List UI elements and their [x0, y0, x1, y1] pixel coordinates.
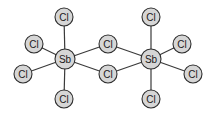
- atom-cl-cl10: Cl: [142, 90, 160, 108]
- atom-cl-cl9: Cl: [184, 65, 202, 83]
- atom-sb-sb2: Sb: [141, 49, 161, 69]
- atom-label: Sb: [145, 54, 158, 65]
- atom-label: Cl: [59, 94, 68, 105]
- atom-label: Cl: [188, 69, 197, 80]
- atom-label: Cl: [103, 39, 112, 50]
- atom-label: Cl: [103, 69, 112, 80]
- atom-label: Sb: [59, 54, 72, 65]
- atom-cl-cl2: Cl: [25, 35, 43, 53]
- molecule-diagram: SbSbClClClClClClClClClCl: [0, 0, 213, 117]
- atom-label: Cl: [146, 94, 155, 105]
- atom-cl-cl4: Cl: [55, 90, 73, 108]
- atom-cl-cl3: Cl: [14, 65, 32, 83]
- atom-label: Cl: [29, 39, 38, 50]
- atom-cl-cl5: Cl: [99, 35, 117, 53]
- atom-label: Cl: [177, 39, 186, 50]
- atom-cl-cl7: Cl: [142, 8, 160, 26]
- atom-label: Cl: [59, 12, 68, 23]
- bonds-layer: [23, 17, 193, 99]
- atoms-layer: SbSbClClClClClClClClClCl: [14, 8, 202, 108]
- atom-cl-cl8: Cl: [173, 35, 191, 53]
- atom-sb-sb1: Sb: [55, 49, 75, 69]
- atom-cl-cl1: Cl: [55, 8, 73, 26]
- atom-label: Cl: [18, 69, 27, 80]
- atom-cl-cl6: Cl: [99, 65, 117, 83]
- atom-label: Cl: [146, 12, 155, 23]
